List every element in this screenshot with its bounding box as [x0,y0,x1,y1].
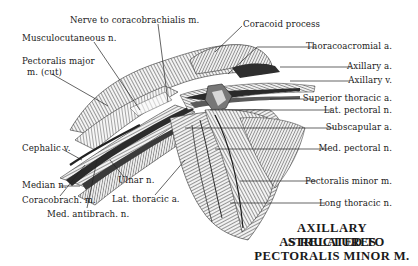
label-pectoralis-major-line2: m. (cut) [27,67,62,77]
label-pectoralis-minor-muscle: Pectoralis minor m. [305,176,392,186]
figure-title-line-3: PECTORALIS MINOR M. [252,249,412,263]
axillary-vessels [180,83,315,112]
label-lat-pectoral-nerve: Lat. pectoral n. [324,105,392,115]
label-coracoid-process: Coracoid process [243,19,320,29]
label-long-thoracic-nerve: Long thoracic n. [319,198,392,208]
label-ulnar-nerve: Ulnar n. [118,175,155,185]
label-lat-thoracic-artery: Lat. thoracic a. [112,194,180,204]
figure-title-line-2: AS RELATED TO [252,235,412,249]
label-nerve-to-coracobrachialis: Nerve to coracobrachialis m. [70,15,199,25]
label-musculocutaneous: Musculocutaneous n. [22,33,117,43]
label-axillary-vein: Axillary v. [348,75,392,85]
label-median-nerve: Median n. [22,180,67,190]
label-subscapular-artery: Subscapular a. [326,122,392,132]
label-med-pectoral-nerve: Med. pectoral n. [319,143,392,153]
label-superior-thoracic-artery: Superior thoracic a. [303,93,392,103]
label-pectoralis-major-line1: Pectoralis major [22,56,95,66]
label-med-antibrach-nerve: Med. antibrach. n. [47,209,129,219]
label-cephalic-vein: Cephalic v. [22,143,71,153]
label-coracobrach-muscle: Coracobrach. m. [22,195,96,205]
label-thoracoacromial-artery: Thoracoacromial a. [306,41,392,51]
anatomical-figure: Nerve to coracobrachialis m. Coracoid pr… [0,0,418,266]
label-axillary-artery: Axillary a. [347,61,392,71]
